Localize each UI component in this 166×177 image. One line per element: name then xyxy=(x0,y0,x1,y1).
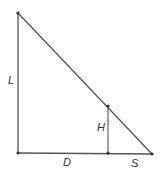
label-L: L xyxy=(8,74,14,86)
hypotenuse xyxy=(18,13,152,154)
label-S: S xyxy=(131,157,139,169)
point-bottom-right xyxy=(150,152,153,155)
label-D: D xyxy=(63,156,71,168)
triangle-diagram: L H D S xyxy=(0,0,166,177)
label-H: H xyxy=(97,121,105,133)
point-mid xyxy=(106,104,109,107)
point-top xyxy=(16,11,19,14)
point-bottom-left xyxy=(16,151,19,154)
point-foot xyxy=(106,151,109,154)
base-line xyxy=(18,153,152,154)
